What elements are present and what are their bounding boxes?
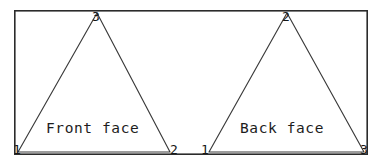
front-face-vertex-2-label: 2: [170, 143, 178, 156]
figure-canvas: Front face Back face 3 1 2 2 1 3: [0, 0, 384, 168]
back-face-caption: Back face: [240, 121, 324, 136]
back-face-vertex-2-label: 2: [282, 10, 290, 23]
front-face-caption: Front face: [46, 121, 139, 136]
back-face-vertex-1-label: 1: [201, 143, 209, 156]
back-face-vertex-3-label: 3: [360, 143, 368, 156]
winding-order-diagram: [0, 0, 384, 168]
front-face-vertex-3-label: 3: [92, 10, 100, 23]
front-face-vertex-1-label: 1: [13, 143, 21, 156]
